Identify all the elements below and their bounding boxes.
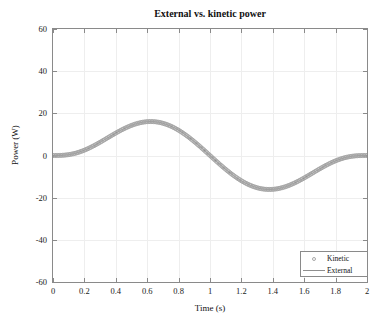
x-tick-label: 2 xyxy=(347,286,382,296)
y-tick-right xyxy=(363,282,367,283)
series-layer xyxy=(53,29,367,282)
y-tick-label: 0 xyxy=(4,151,47,161)
legend-label-external: External xyxy=(327,266,352,275)
y-tick xyxy=(53,282,57,283)
y-tick-label: -20 xyxy=(4,193,47,203)
y-tick-label: 40 xyxy=(4,66,47,76)
chart-title: External vs. kinetic power xyxy=(52,8,368,19)
legend-label-kinetic: Kinetic xyxy=(327,254,349,263)
legend-box[interactable]: Kinetic External xyxy=(300,251,368,277)
figure-canvas: External vs. kinetic power Power (W) Tim… xyxy=(0,0,382,326)
kinetic-series-markers xyxy=(53,120,367,192)
plot-area xyxy=(52,28,368,283)
x-axis-title: Time (s) xyxy=(52,303,368,313)
y-tick-label: 20 xyxy=(4,108,47,118)
x-tick-top xyxy=(367,29,368,33)
legend-item-external[interactable]: External xyxy=(301,264,367,277)
y-tick-label: 60 xyxy=(4,24,47,34)
line-marker-icon xyxy=(301,270,327,271)
y-tick-label: -40 xyxy=(4,235,47,245)
circle-marker-icon xyxy=(301,257,327,261)
x-tick xyxy=(367,278,368,282)
